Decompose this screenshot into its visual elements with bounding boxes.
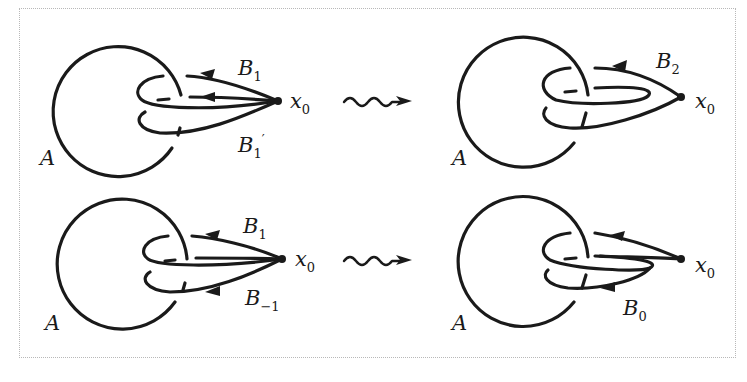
svg-text:x0: x0 xyxy=(295,247,315,275)
basepoint-dot xyxy=(677,255,685,263)
circle-a xyxy=(458,197,588,327)
squiggly-arrow-bottom xyxy=(344,255,412,265)
basepoint-dot xyxy=(677,93,685,101)
svg-text:B1: B1 xyxy=(242,214,267,242)
label-b0: B xyxy=(622,296,638,320)
panel-bottom-right: A x0 B0 xyxy=(450,197,715,335)
label-x0: x xyxy=(695,89,707,113)
svg-text:B0: B0 xyxy=(622,296,647,324)
arrow-head-icon xyxy=(200,92,215,102)
panel-top-right: A x0 B2 xyxy=(450,37,715,170)
label-x0: x xyxy=(695,253,707,277)
svg-text:x0: x0 xyxy=(290,89,310,117)
panel-bottom-left: A x0 B1 B−1 xyxy=(43,199,315,335)
homotopy-diagram: A x0 B1 B1′ A x0 B2 A x0 B1 B− xyxy=(0,0,747,382)
label-b2: B xyxy=(655,49,671,73)
svg-text:B1: B1 xyxy=(237,56,262,84)
label-b1: B xyxy=(242,214,258,238)
circle-a xyxy=(53,47,181,177)
label-b-1: B xyxy=(244,286,260,310)
label-b1: B xyxy=(237,56,253,80)
label-x0: x xyxy=(290,89,302,113)
svg-text:B1′: B1′ xyxy=(237,132,265,161)
svg-text:B−1: B−1 xyxy=(244,286,280,314)
svg-text:x0: x0 xyxy=(695,89,715,117)
label-a: A xyxy=(38,146,55,170)
label-a: A xyxy=(450,311,467,335)
svg-text:B2: B2 xyxy=(655,49,680,77)
label-a: A xyxy=(450,146,467,170)
loop-b1 xyxy=(192,236,282,259)
svg-text:x0: x0 xyxy=(695,253,715,281)
label-x0: x xyxy=(295,247,307,271)
basepoint-dot xyxy=(278,255,286,263)
panel-top-left: A x0 B1 B1′ xyxy=(38,47,310,177)
label-b1-prime: B xyxy=(237,133,253,157)
squiggly-arrow-top xyxy=(344,96,412,106)
label-a: A xyxy=(43,311,60,335)
basepoint-dot xyxy=(274,97,282,105)
